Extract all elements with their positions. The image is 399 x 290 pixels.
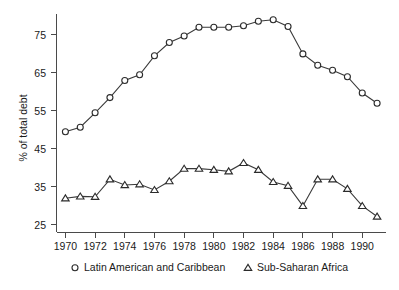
legend-circle-icon <box>72 265 78 271</box>
data-point-marker <box>151 53 157 59</box>
x-tick-label: 1976 <box>143 240 167 252</box>
data-point-marker <box>270 17 276 23</box>
y-tick-label: 35 <box>34 181 46 193</box>
chart-legend: Latin American and CaribbeanSub-Saharan … <box>72 261 348 273</box>
y-axis-label: % of total debt <box>17 94 29 161</box>
debt-share-line-chart: % of total debt 253545556575 19701972197… <box>0 0 399 290</box>
data-point-marker <box>62 129 68 135</box>
y-tick-label: 45 <box>34 143 46 155</box>
data-point-marker <box>374 100 380 106</box>
y-tick-label: 75 <box>34 29 46 41</box>
x-tick-label: 1990 <box>351 240 375 252</box>
data-point-marker <box>344 74 350 80</box>
x-tick-label: 1986 <box>291 240 315 252</box>
legend-label: Sub-Saharan Africa <box>257 261 348 273</box>
data-point-marker <box>359 90 365 96</box>
legend-item-latin-american-and-caribbean: Latin American and Caribbean <box>72 261 225 273</box>
y-tick-label: 25 <box>34 219 46 231</box>
data-point-marker <box>107 95 113 101</box>
data-point-marker <box>285 24 291 30</box>
data-point-marker <box>255 18 261 24</box>
data-point-marker <box>181 33 187 39</box>
x-tick-label: 1980 <box>202 240 226 252</box>
data-point-marker <box>211 24 217 30</box>
data-point-marker <box>196 24 202 30</box>
data-point-marker <box>77 124 83 130</box>
x-tick-label: 1970 <box>54 240 78 252</box>
x-tick-label: 1988 <box>321 240 345 252</box>
data-point-marker <box>315 62 321 68</box>
data-point-marker <box>166 40 172 46</box>
chart-container: % of total debt 253545556575 19701972197… <box>0 0 399 290</box>
x-tick-label: 1984 <box>262 240 286 252</box>
data-point-marker <box>122 78 128 84</box>
data-point-marker <box>241 23 247 29</box>
data-point-marker <box>137 72 143 78</box>
legend-item-sub-saharan-africa: Sub-Saharan Africa <box>244 261 348 273</box>
x-tick-label: 1972 <box>83 240 107 252</box>
legend-label: Latin American and Caribbean <box>84 261 225 273</box>
data-point-marker <box>226 24 232 30</box>
data-point-marker <box>92 110 98 116</box>
y-tick-label: 55 <box>34 105 46 117</box>
data-point-marker <box>300 51 306 57</box>
y-tick-label: 65 <box>34 67 46 79</box>
x-tick-label: 1974 <box>113 240 137 252</box>
data-point-marker <box>330 67 336 73</box>
x-tick-label: 1978 <box>172 240 196 252</box>
x-tick-label: 1982 <box>232 240 256 252</box>
